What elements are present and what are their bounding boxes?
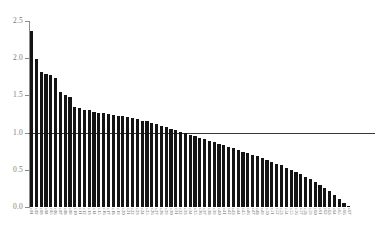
x-axis-tick-label: c34 <box>187 208 192 215</box>
x-axis-tick-label: c14 <box>91 208 96 215</box>
bar <box>318 185 321 207</box>
bar <box>193 136 196 207</box>
bar <box>145 121 148 207</box>
y-axis-tick-label: 0.5 <box>0 166 23 174</box>
bar <box>131 118 134 207</box>
x-axis-tick-label: c04 <box>43 208 48 215</box>
bar <box>184 133 187 207</box>
bar <box>265 160 268 207</box>
bar <box>285 168 288 207</box>
y-axis-tick-label: 2.5 <box>0 17 23 25</box>
bar <box>256 156 259 207</box>
x-axis-tick-label: c44 <box>236 208 241 215</box>
bar <box>78 108 81 207</box>
bar <box>299 174 302 207</box>
bars-layer <box>30 21 352 207</box>
bar <box>261 158 264 207</box>
bar <box>213 142 216 207</box>
x-axis-tick-label: c41 <box>221 208 226 215</box>
bar <box>222 145 225 207</box>
bar-chart: 0.00.51.01.52.02.5 c01c02c03c04c05c06c07… <box>0 0 386 245</box>
x-axis-tick-label: c45 <box>240 208 245 215</box>
bar <box>179 132 182 207</box>
bar <box>64 95 67 207</box>
x-axis-tick-label: c30 <box>168 208 173 215</box>
x-axis-tick-label: c67 <box>346 208 351 215</box>
bar <box>328 191 331 207</box>
bar <box>102 113 105 207</box>
bar <box>83 110 86 207</box>
bar <box>198 138 201 207</box>
bar <box>169 129 172 207</box>
bar <box>189 135 192 207</box>
bar <box>68 97 71 207</box>
x-axis-tick-label: c20 <box>120 208 125 215</box>
bar <box>92 112 95 207</box>
header-ghost-text <box>0 0 386 9</box>
bar <box>203 139 206 207</box>
bar <box>165 127 168 207</box>
x-axis-labels: c01c02c03c04c05c06c07c08c09c10c11c12c13c… <box>30 208 352 245</box>
bar <box>280 165 283 207</box>
bar <box>323 188 326 207</box>
bar <box>141 121 144 207</box>
bar <box>208 141 211 207</box>
bar <box>237 150 240 207</box>
bar <box>136 119 139 207</box>
bar <box>217 144 220 207</box>
x-axis-tick-label: c08 <box>63 208 68 215</box>
bar <box>338 199 341 207</box>
bar <box>150 123 153 207</box>
x-axis-tick-label: c15 <box>96 208 101 215</box>
x-axis-tick-label: c40 <box>216 208 221 215</box>
x-axis-tick-label: c29 <box>163 208 168 215</box>
x-axis-tick-label: c56 <box>293 208 298 215</box>
bar <box>30 31 33 207</box>
x-axis-tick-label: c35 <box>192 208 197 215</box>
x-axis-tick-label: c10 <box>72 208 77 215</box>
bar <box>347 206 350 207</box>
bar <box>333 195 336 207</box>
bar <box>121 116 124 207</box>
bar <box>342 203 345 207</box>
x-axis-tick-label: c50 <box>264 208 269 215</box>
bar <box>174 130 177 207</box>
bar <box>88 110 91 207</box>
bar <box>155 124 158 207</box>
bar <box>275 164 278 207</box>
bar <box>270 162 273 207</box>
bar <box>294 172 297 207</box>
bar <box>73 107 76 207</box>
bar <box>40 72 43 207</box>
x-axis-tick-label: c19 <box>115 208 120 215</box>
x-axis-tick-label: c55 <box>288 208 293 215</box>
bar <box>314 182 317 207</box>
x-axis-tick-label: c24 <box>139 208 144 215</box>
bar <box>251 155 254 207</box>
bar <box>97 113 100 207</box>
x-axis-tick-label: c61 <box>317 208 322 215</box>
plot-area <box>30 21 352 207</box>
x-axis-tick-label: c09 <box>67 208 72 215</box>
bar <box>49 75 52 207</box>
bar <box>117 116 120 208</box>
bar <box>246 153 249 207</box>
y-axis-tick-label: 0.0 <box>0 203 23 211</box>
x-axis-tick-label: c65 <box>336 208 341 215</box>
bar <box>44 74 47 207</box>
y-axis-tick-label: 1.5 <box>0 91 23 99</box>
bar <box>227 147 230 207</box>
bar <box>304 177 307 208</box>
bar <box>59 92 62 207</box>
x-axis-tick-label: c39 <box>211 208 216 215</box>
bar <box>112 115 115 207</box>
y-axis-tick-label: 1.0 <box>0 129 23 137</box>
bar <box>309 179 312 207</box>
x-axis-tick-label: c66 <box>341 208 346 215</box>
bar <box>54 78 57 207</box>
y-axis-tick-label: 2.0 <box>0 54 23 62</box>
bar <box>126 117 129 207</box>
bar <box>232 148 235 207</box>
x-axis-tick-label: c46 <box>245 208 250 215</box>
bar <box>241 152 244 207</box>
